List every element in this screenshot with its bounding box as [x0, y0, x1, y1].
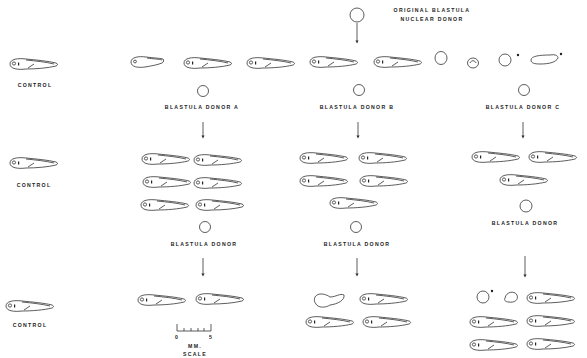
control-tadpole-row1 — [10, 59, 58, 70]
nuclear-transplant-diagram: ORIGINAL BLASTULA NUCLEAR DONOR — [0, 0, 587, 358]
donor-a-label: BLASTULA DONOR A — [165, 104, 239, 110]
donor-b2-egg — [351, 222, 362, 233]
control-label-row3: CONTROL — [13, 322, 48, 328]
scale-tick-end: 5 — [209, 334, 212, 340]
donor-b-third-gen — [306, 294, 411, 328]
donor-c2-egg — [520, 200, 532, 212]
donor-b-offspring — [300, 153, 408, 209]
original-donor-egg — [350, 8, 364, 42]
donor-c-label: BLASTULA DONOR C — [486, 104, 561, 110]
donor-a-third-gen — [138, 294, 244, 306]
control-label-row2: CONTROL — [17, 182, 52, 188]
donor-a-offspring — [141, 154, 244, 211]
control-tadpole-row3 — [6, 301, 54, 312]
donor-c-third-gen — [470, 290, 575, 351]
control-tadpole-row2 — [10, 158, 58, 169]
donor-b-label: BLASTULA DONOR B — [320, 104, 395, 110]
donor-a-sub-label: BLASTULA DONOR — [171, 241, 238, 247]
donor-b-egg — [354, 85, 365, 96]
scale-caption: SCALE — [183, 351, 207, 357]
scale-unit: MM. — [188, 343, 202, 349]
diagram-drawing — [0, 0, 587, 358]
scale-tick-start: 0 — [175, 334, 178, 340]
donor-c-sub-label: BLASTULA DONOR — [492, 220, 559, 226]
donor-b-sub-label: BLASTULA DONOR — [324, 241, 391, 247]
donor-a-egg — [198, 86, 209, 97]
scale-bar — [177, 324, 211, 331]
first-generation-row — [131, 52, 562, 69]
donor-c-offspring — [472, 152, 577, 186]
donor-c-egg — [519, 85, 530, 96]
donor-a2-egg — [200, 222, 211, 233]
control-label-row1: CONTROL — [18, 82, 53, 88]
